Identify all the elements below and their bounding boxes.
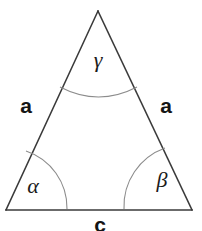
bottom-right-angle-label-beta: β (156, 167, 168, 192)
triangle-diagram-svg: a a c γ α β (0, 0, 202, 231)
apex-angle-label-gamma: γ (94, 47, 104, 72)
base-side-length-label: c (94, 213, 106, 231)
left-side-length-label: a (20, 94, 32, 117)
right-side-length-label: a (160, 94, 172, 117)
bottom-left-angle-label-alpha: α (27, 173, 39, 198)
triangle-figure: a a c γ α β (0, 0, 202, 231)
